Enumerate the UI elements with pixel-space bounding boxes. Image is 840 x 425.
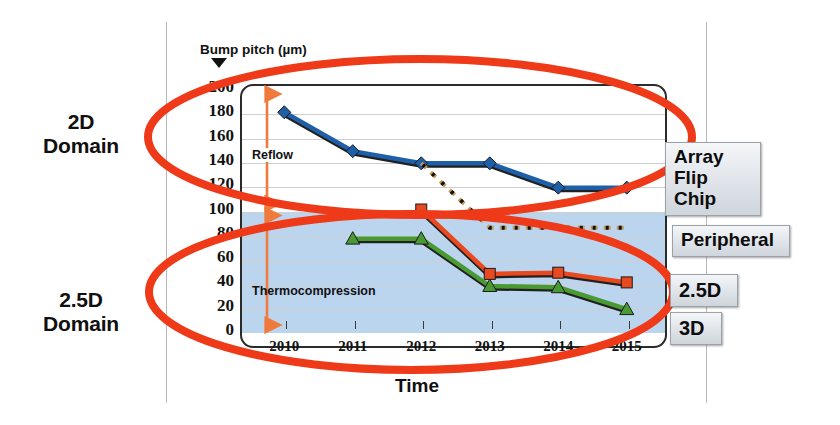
y-tick-label: 60 <box>190 247 234 267</box>
gridline <box>242 212 665 213</box>
plot-area <box>240 84 667 348</box>
slide-canvas: 2D Domain 2.5D Domain Bump pitch (µm) 20… <box>0 0 840 425</box>
annotation-reflow: Reflow <box>250 148 295 162</box>
y-tick-label: 20 <box>190 296 234 316</box>
x-tick-label: 2012 <box>386 338 456 355</box>
y-tick-label: 0 <box>190 320 234 340</box>
x-tick <box>629 321 630 329</box>
x-tick <box>355 321 356 329</box>
x-tick <box>492 321 493 329</box>
x-axis-title: Time <box>395 375 439 397</box>
x-tick-label: 2013 <box>455 338 525 355</box>
domain-label-2d: 2D Domain <box>6 110 156 157</box>
domain-label-2-5d: 2.5D Domain <box>6 288 156 335</box>
y-tick-label: 100 <box>190 199 234 219</box>
slide-frame-left-rule <box>166 22 167 403</box>
thermocompression-band <box>242 212 665 334</box>
gridline <box>242 114 665 115</box>
x-tick-label: 2010 <box>249 338 319 355</box>
gridline <box>242 260 665 261</box>
y-tick-label: 160 <box>190 126 234 146</box>
x-tick-label: 2015 <box>592 338 662 355</box>
gridline <box>242 139 665 140</box>
y-tick-label: 120 <box>190 174 234 194</box>
callout-peripheral[interactable]: Peripheral <box>672 225 790 257</box>
x-tick <box>286 321 287 329</box>
y-axis-caret-icon <box>211 58 227 68</box>
y-tick-label: 180 <box>190 101 234 121</box>
y-tick-label: 140 <box>190 150 234 170</box>
x-tick <box>560 321 561 329</box>
x-tick-label: 2011 <box>318 338 388 355</box>
x-tick-label: 2014 <box>523 338 593 355</box>
gridline <box>242 187 665 188</box>
y-tick-label: 80 <box>190 223 234 243</box>
gridline <box>242 309 665 310</box>
annotation-thermocompression: Thermocompression <box>250 284 378 298</box>
x-tick <box>423 321 424 329</box>
callout-3d[interactable]: 3D <box>670 312 722 345</box>
gridline <box>242 236 665 237</box>
y-axis-title: Bump pitch (µm) <box>200 42 307 57</box>
y-tick-label: 40 <box>190 271 234 291</box>
gridline <box>242 163 665 164</box>
callout-2-5d[interactable]: 2.5D <box>670 274 738 307</box>
y-tick-label: 200 <box>190 77 234 97</box>
callout-array-flip-chip[interactable]: Array Flip Chip <box>665 142 761 216</box>
